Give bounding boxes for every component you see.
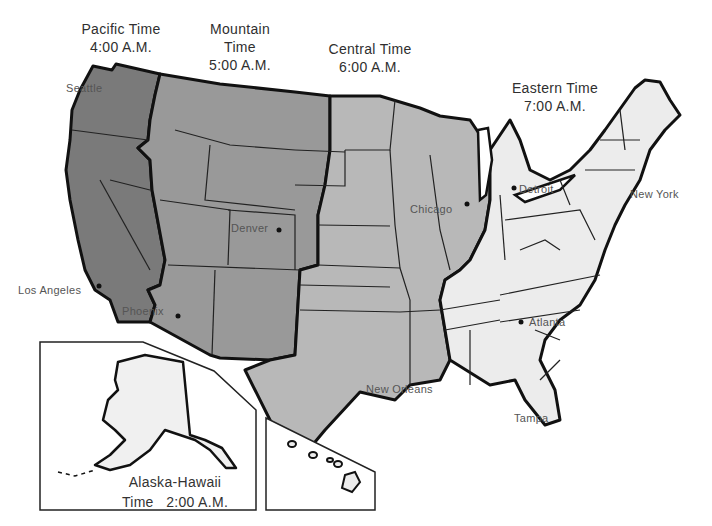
central-zone-name: Central Time — [310, 40, 430, 58]
mountain-zone-name-2: Time — [195, 38, 285, 56]
eastern-zone-name: Eastern Time — [500, 79, 610, 97]
city-tampa: Tampa — [514, 412, 549, 424]
pacific-time-label: Pacific Time 4:00 A.M. — [66, 20, 176, 56]
city-new-york: New York — [630, 188, 679, 200]
city-seattle: Seattle — [66, 82, 102, 94]
city-denver: Denver — [231, 222, 268, 234]
mountain-zone-time: 5:00 A.M. — [195, 56, 285, 74]
pacific-zone-time: 4:00 A.M. — [66, 38, 176, 56]
mountain-zone-name: Mountain — [195, 20, 285, 38]
eastern-time-label: Eastern Time 7:00 A.M. — [500, 79, 610, 115]
city-los-angeles: Los Angeles — [18, 284, 81, 296]
central-time-label: Central Time 6:00 A.M. — [310, 40, 430, 76]
central-zone-time: 6:00 A.M. — [310, 58, 430, 76]
alaska-hawaii-zone-time: Time 2:00 A.M. — [105, 492, 245, 512]
city-atlanta: Atlanta — [529, 316, 565, 328]
city-chicago: Chicago — [410, 203, 452, 215]
city-new-orleans: New Orleans — [366, 383, 433, 395]
city-phoenix: Phoenix — [122, 305, 164, 317]
eastern-zone-time: 7:00 A.M. — [500, 97, 610, 115]
alaska-hawaii-zone-name: Alaska-Hawaii — [105, 472, 245, 492]
city-detroit: Detroit — [519, 183, 554, 195]
mountain-time-label: Mountain Time 5:00 A.M. — [195, 20, 285, 74]
alaska-hawaii-time-label: Alaska-Hawaii Time 2:00 A.M. — [105, 472, 245, 512]
pacific-zone-name: Pacific Time — [66, 20, 176, 38]
